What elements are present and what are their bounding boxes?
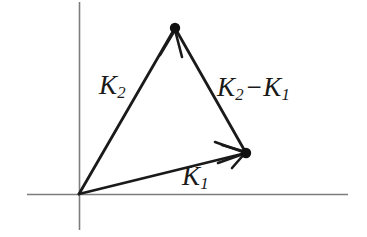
vector-label-k1: K1 <box>182 163 209 192</box>
dot-k2-tip <box>170 23 180 33</box>
label-k2k1-symbol-b: K <box>263 72 281 102</box>
label-k2-subscript: 2 <box>117 83 125 102</box>
label-k1-symbol: K <box>182 161 200 191</box>
axes-group <box>27 2 348 230</box>
dot-k1-tip <box>241 148 251 158</box>
label-k1-subscript: 1 <box>200 174 208 193</box>
vector-label-k2: K2 <box>99 72 126 101</box>
vector-label-k2-minus-k1: K2−K1 <box>217 74 290 103</box>
label-k2k1-subscript-b: 1 <box>282 85 290 104</box>
vector-diagram-figure: K2 K2−K1 K1 <box>0 0 367 237</box>
label-k2k1-subscript-a: 2 <box>235 85 243 104</box>
label-k2k1-operator: − <box>246 72 261 102</box>
vector-k1-shaft <box>79 153 246 194</box>
label-k2-symbol: K <box>99 70 117 100</box>
label-k2k1-symbol-a: K <box>217 72 235 102</box>
diagram-canvas <box>0 0 367 237</box>
